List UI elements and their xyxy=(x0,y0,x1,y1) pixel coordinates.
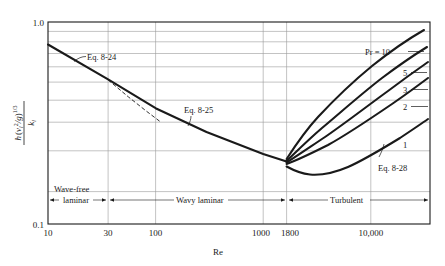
y-tick-label-1: 1.0 xyxy=(33,18,45,28)
y-tick-label-0: 0.1 xyxy=(33,220,44,230)
region-turbulent-label: Turbulent xyxy=(330,195,364,205)
annotation-eq-8-25-text: Eq. 8-25 xyxy=(184,105,213,115)
region-wavy-laminar-label: Wavy laminar xyxy=(176,195,224,205)
curve-label-1-group: 1 xyxy=(403,140,407,150)
chart-svg: Pr = 10 5 3 2 1 Eq. 8-24 Eq. 8-25 Eq. 8-… xyxy=(0,0,445,266)
curve-label-5: 5 xyxy=(403,68,407,78)
region-wave-free-laminar-line2: laminar xyxy=(63,195,89,205)
x-axis-title: Re xyxy=(213,247,223,257)
region-wave-free-laminar-line1: Wave-free xyxy=(54,184,89,194)
curve-label-2: 2 xyxy=(403,102,407,112)
curve-label-1: 1 xyxy=(403,140,407,150)
x-tick-label-10: 10 xyxy=(44,228,54,238)
x-tick-label-10000: 10,000 xyxy=(358,228,383,238)
x-tick-label-1800: 1800 xyxy=(281,228,300,238)
x-tick-label-30: 30 xyxy=(104,228,114,238)
x-tick-label-1000: 1000 xyxy=(252,228,271,238)
annotation-eq-8-28-text: Eq. 8-28 xyxy=(378,163,407,173)
curve-label-3: 3 xyxy=(403,85,407,95)
chart-figure: Pr = 10 5 3 2 1 Eq. 8-24 Eq. 8-25 Eq. 8-… xyxy=(0,0,445,266)
x-tick-label-100: 100 xyxy=(149,228,163,238)
chart-background xyxy=(0,0,445,266)
annotation-eq-8-24-text: Eq. 8-24 xyxy=(87,52,117,62)
curve-label-pr10: Pr = 10 xyxy=(365,47,390,57)
